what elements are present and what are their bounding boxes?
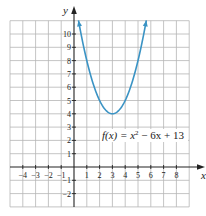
x-tick-label: 5: [136, 171, 140, 180]
x-tick-label: 7: [162, 171, 166, 180]
function-label-main: f(x) = x: [102, 129, 135, 142]
y-axis-label: y: [62, 4, 68, 16]
x-tick-label: 4: [123, 171, 127, 180]
x-axis-label: x: [200, 169, 206, 181]
y-tick-label: 4: [67, 110, 71, 119]
function-annotation: f(x) = x2 − 6x + 13: [100, 129, 188, 142]
y-tick-label: 5: [67, 97, 71, 106]
y-tick-label: 10: [63, 30, 71, 39]
function-label: f(x) = x2 − 6x + 13: [102, 129, 184, 142]
x-tick-label: 1: [85, 171, 89, 180]
y-tick-label: −2: [62, 190, 71, 199]
function-label-rest: − 6x + 13: [139, 129, 185, 141]
x-tick-label: −4: [19, 171, 28, 180]
x-tick-label: −2: [44, 171, 53, 180]
x-tick-label: −3: [31, 171, 40, 180]
curve-left-arrow-icon: [77, 20, 82, 26]
x-tick-label: 8: [174, 171, 178, 180]
tick-labels: −4−3−2−11234567810987654321−1−2: [19, 30, 179, 199]
y-tick-label: 9: [67, 43, 71, 52]
y-tick-label: −1: [62, 176, 71, 185]
x-tick-label: 3: [110, 171, 114, 180]
y-tick-label: 3: [67, 123, 71, 132]
y-tick-label: 8: [67, 57, 71, 66]
y-tick-label: 2: [67, 136, 71, 145]
y-tick-label: 6: [67, 83, 71, 92]
y-tick-label: 7: [67, 70, 71, 79]
y-tick-label: 1: [67, 150, 71, 159]
curve-right-arrow-icon: [143, 20, 148, 26]
parabola-chart: −4−3−2−11234567810987654321−1−2 x y f(x)…: [0, 0, 206, 216]
x-tick-label: 2: [98, 171, 102, 180]
y-axis-arrow-icon: [71, 6, 77, 14]
x-tick-label: 6: [149, 171, 153, 180]
